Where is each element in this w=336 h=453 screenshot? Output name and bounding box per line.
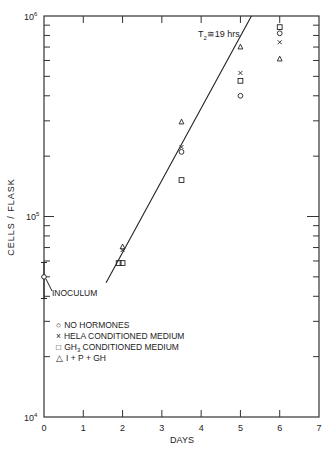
y-axis-label: CELLS / FLASK: [6, 178, 16, 256]
data-point-circle: [277, 31, 282, 36]
y-tick-1e6: 106: [24, 11, 38, 22]
data-point-circle: [238, 93, 243, 98]
x-tick-label: 3: [159, 423, 164, 433]
data-point-x: [278, 40, 282, 44]
data-point-circle: [179, 149, 184, 154]
x-axis-label: DAYS: [170, 435, 194, 445]
x-tick-label: 1: [81, 423, 86, 433]
x-tick-labels: 01234567: [41, 423, 321, 433]
doubling-time-label: T2≅19 hrs: [198, 29, 240, 41]
x-tick-label: 6: [277, 423, 282, 433]
x-tick-label: 0: [41, 423, 46, 433]
legend: ○NO HORMONES ×HELA CONDITIONED MEDIUM □G…: [56, 320, 184, 363]
data-point-triangle: [179, 119, 184, 124]
legend-item-hela: ×HELA CONDITIONED MEDIUM: [56, 331, 184, 341]
growth-chart: 106 105 104 CELLS / FLASK 01234567 DAYS …: [0, 0, 336, 453]
data-point-square: [179, 178, 184, 183]
data-point-square: [277, 25, 282, 30]
legend-item-no-hormones: ○NO HORMONES: [56, 320, 130, 330]
data-point-triangle: [120, 244, 125, 249]
inoculum-label: INOCULUM: [52, 288, 97, 298]
data-point-triangle: [277, 56, 282, 61]
data-points: [116, 25, 282, 266]
data-point-square: [238, 78, 243, 83]
fit-line: [106, 16, 251, 283]
y-tick-1e4: 104: [24, 412, 38, 423]
x-tick-label: 4: [199, 423, 204, 433]
inoculum-marker: [41, 262, 47, 298]
data-point-x: [238, 71, 242, 75]
x-tick-label: 5: [238, 423, 243, 433]
legend-item-ipgh: △I + P + GH: [56, 353, 106, 363]
data-point-triangle: [238, 44, 243, 49]
y-tick-1e5: 105: [26, 211, 40, 222]
x-tick-label: 7: [316, 423, 321, 433]
legend-item-gh3: □GH3 CONDITIONED MEDIUM: [56, 342, 179, 353]
x-tick-label: 2: [120, 423, 125, 433]
